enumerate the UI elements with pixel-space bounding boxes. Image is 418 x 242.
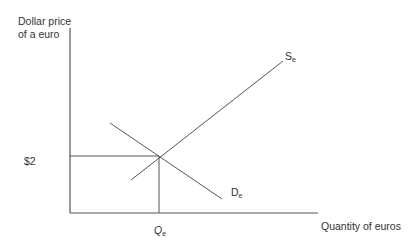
demand-label: De [231,186,243,202]
y-axis-label-line1: Dollar price [18,15,71,28]
quantity-label-sub: e [162,230,166,237]
demand-curve [110,123,222,199]
quantity-label: Qe [154,224,166,240]
y-axis-label: Dollar price of a euro [18,15,71,41]
demand-label-sub: e [239,192,243,199]
quantity-label-main: Q [154,224,162,236]
y-axis-label-line2: of a euro [18,28,71,41]
supply-label-main: S [285,50,292,62]
price-label: $2 [24,155,36,168]
x-axis-label: Quantity of euros [321,220,401,233]
supply-curve [131,61,283,180]
supply-label-sub: e [292,56,296,63]
demand-label-main: D [231,186,239,198]
supply-label: Se [285,50,296,66]
